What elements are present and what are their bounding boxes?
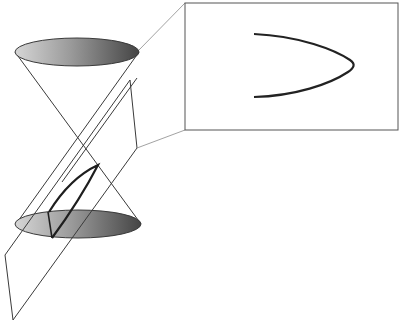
cutting-plane-outline xyxy=(5,80,137,320)
projection-line-bottom xyxy=(137,130,185,148)
projection-line-top xyxy=(139,3,185,50)
conic-section-diagram xyxy=(0,0,404,329)
cutting-plane-inner-edge xyxy=(62,78,137,182)
diagram-svg xyxy=(0,0,404,329)
top-cone-base-ellipse xyxy=(15,38,139,66)
inset-box xyxy=(185,3,398,130)
